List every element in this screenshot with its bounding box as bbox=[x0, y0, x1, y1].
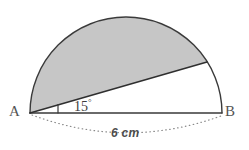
angle-label: 15° bbox=[74, 98, 92, 114]
point-label-b: B bbox=[225, 104, 235, 119]
diameter-length-label: 6 cm bbox=[111, 127, 140, 139]
shaded-segment-region bbox=[30, 18, 207, 113]
degree-symbol: ° bbox=[88, 97, 92, 107]
point-label-a: A bbox=[9, 104, 20, 119]
angle-value: 15 bbox=[74, 99, 88, 114]
geometry-figure: A B 15° 6 cm bbox=[0, 0, 249, 150]
